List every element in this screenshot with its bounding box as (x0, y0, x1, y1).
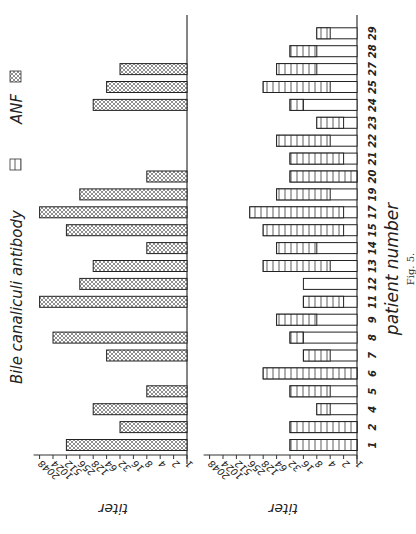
bile-antibody-hatched-segment (277, 64, 317, 75)
anf-bar (147, 243, 187, 254)
bile-antibody-hatched-segment (290, 422, 357, 433)
bile-antibody-hatched-segment (290, 99, 303, 110)
legend-swatch-stripes (10, 159, 21, 170)
anf-bar (80, 189, 187, 200)
bile-antibody-hatched-segment (290, 46, 317, 57)
patient-number-label: 14 (367, 241, 378, 255)
bile-antibody-hatched-segment (317, 404, 330, 415)
y-tick-label: 4 (326, 458, 338, 470)
patient-number-label: 24 (367, 98, 378, 112)
anf-bar (40, 296, 187, 307)
patient-number-label: 29 (367, 26, 378, 40)
bile-antibody-hatched-segment (290, 332, 303, 343)
anf-bar (53, 332, 187, 343)
bile-antibody-panel: 124816326412825651210242048titer (204, 15, 365, 517)
bile-antibody-hatched-segment (290, 171, 357, 182)
anf-bar (147, 386, 187, 397)
bile-antibody-hatched-segment (277, 243, 317, 254)
bile-antibody-hatched-segment (277, 189, 331, 200)
patient-number-label: 15 (367, 223, 378, 237)
anf-bar (40, 207, 187, 218)
y-tick-label: 2 (340, 458, 352, 470)
figure-caption: Fig. 5. (405, 253, 416, 285)
patient-number-labels: 1245678911121314151719202122232425272829 (367, 26, 378, 448)
patient-number-label: 8 (367, 334, 378, 341)
anf-bar (120, 422, 187, 433)
patient-number-label: 20 (367, 170, 378, 184)
bile-antibody-hatched-segment (250, 207, 344, 218)
bile-antibody-bar (303, 278, 357, 289)
x-axis-title: patient number (382, 202, 402, 336)
y-axis-title: titer (97, 501, 127, 517)
bile-antibody-hatched-segment (277, 135, 331, 146)
patient-number-label: 11 (367, 295, 378, 309)
bile-antibody-hatched-segment (263, 368, 357, 379)
bile-antibody-hatched-segment (290, 386, 330, 397)
y-tick-label: 1 (353, 458, 365, 470)
anf-bar (66, 440, 187, 451)
anf-bar (80, 278, 187, 289)
anf-bar (147, 171, 187, 182)
patient-number-label: 7 (367, 352, 378, 359)
patient-number-label: 5 (367, 388, 378, 395)
patient-number-label: 9 (367, 316, 378, 323)
bile-antibody-hatched-segment (277, 314, 317, 325)
patient-number-label: 27 (367, 62, 378, 76)
patient-number-label: 4 (367, 406, 378, 414)
anf-bar (120, 64, 187, 75)
legend-label-anf: ANF (8, 94, 26, 125)
bile-antibody-hatched-segment (290, 153, 344, 164)
anf-panel: 124816326412825651210242048titer (34, 15, 195, 517)
bile-antibody-hatched-segment (290, 440, 357, 451)
bile-antibody-hatched-segment (263, 225, 343, 236)
patient-number-label: 19 (367, 187, 378, 201)
patient-number-label: 25 (367, 80, 378, 94)
patient-number-label: 22 (367, 134, 378, 148)
bile-antibody-hatched-segment (303, 350, 330, 361)
bile-antibody-hatched-segment (317, 117, 344, 128)
anf-bar (107, 82, 187, 93)
anf-bar (107, 350, 187, 361)
y-tick-label: 4 (156, 458, 168, 470)
patient-number-label: 1 (367, 442, 378, 449)
patient-number-label: 13 (367, 259, 378, 273)
anf-bar (93, 261, 187, 272)
anf-bar (66, 225, 187, 236)
patient-number-label: 17 (367, 205, 378, 219)
legend-label-bile-antibody: Bile canaliculi antibody (8, 209, 26, 384)
patient-number-label: 6 (367, 370, 378, 377)
y-tick-label: 1 (183, 458, 195, 470)
y-axis-title: titer (267, 501, 297, 517)
bile-antibody-hatched-segment (317, 28, 330, 39)
bile-antibody-hatched-segment (263, 82, 330, 93)
patient-number-label: 2 (367, 424, 378, 431)
rotated-figure: Bile canaliculi antibodyANF 124816326412… (0, 0, 416, 534)
y-tick-label: 2 (170, 458, 182, 470)
figure-canvas: Bile canaliculi antibodyANF 124816326412… (0, 0, 416, 534)
anf-bar (93, 99, 187, 110)
patient-number-label: 23 (367, 116, 378, 130)
legend: Bile canaliculi antibodyANF (8, 71, 26, 384)
anf-bar (93, 404, 187, 415)
bile-antibody-hatched-segment (263, 261, 330, 272)
patient-number-label: 28 (367, 44, 378, 58)
patient-number-label: 21 (367, 152, 378, 166)
legend-swatch-crosshatch (10, 71, 21, 82)
patient-number-label: 12 (367, 277, 378, 291)
bile-antibody-hatched-segment (303, 296, 343, 307)
